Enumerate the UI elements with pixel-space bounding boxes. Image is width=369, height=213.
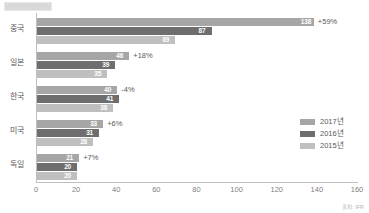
- bar-value-label: 20: [64, 162, 71, 171]
- bar[interactable]: [37, 27, 212, 35]
- bar-value-label: 138: [301, 17, 311, 26]
- bar-value-label: 35: [94, 69, 101, 78]
- bar-row[interactable]: 69: [37, 36, 358, 44]
- bar-row[interactable]: 87: [37, 27, 358, 35]
- bar-row[interactable]: 38: [37, 104, 358, 112]
- bar-group: 463935+18%: [37, 52, 358, 79]
- bar-group: 404138-4%: [37, 86, 358, 113]
- bar[interactable]: [37, 163, 77, 171]
- bar-value-label: 40: [104, 85, 111, 94]
- bar-value-label: 39: [102, 60, 109, 69]
- x-axis-tick-label: 0: [34, 184, 38, 196]
- growth-annotation: -4%: [121, 85, 134, 95]
- bar[interactable]: [37, 36, 175, 44]
- bar-value-label: 28: [80, 137, 87, 146]
- legend-item[interactable]: 2015년: [300, 140, 360, 151]
- bar-value-label: 33: [90, 119, 97, 128]
- bar-row[interactable]: 39: [37, 61, 358, 69]
- x-axis-ticks: 020406080100120140160: [36, 184, 358, 198]
- x-axis-tick-label: 160: [351, 184, 364, 196]
- bar-row[interactable]: 20: [37, 163, 358, 171]
- bar-value-label: 20: [64, 171, 71, 180]
- legend-item[interactable]: 2017년: [300, 116, 360, 127]
- legend-swatch: [300, 119, 315, 125]
- bar-chart: 1388769+59%463935+18%404138-4%333128+6%2…: [0, 0, 369, 213]
- category-label: 중국: [0, 24, 34, 34]
- category-label: 한국: [0, 92, 34, 102]
- bar-row[interactable]: 35: [37, 70, 358, 78]
- bar-group: 212020+7%: [37, 154, 358, 181]
- x-axis-tick-label: 20: [72, 184, 80, 196]
- plot-area: 1388769+59%463935+18%404138-4%333128+6%2…: [36, 13, 358, 183]
- chart-legend: 2017년2016년2015년: [297, 114, 363, 154]
- bar-row[interactable]: 138: [37, 18, 358, 26]
- x-axis-tick-label: 100: [230, 184, 243, 196]
- bar-row[interactable]: 41: [37, 95, 358, 103]
- bar[interactable]: [37, 18, 314, 26]
- legend-swatch: [300, 143, 315, 149]
- bar-value-label: 87: [199, 26, 206, 35]
- legend-label: 2017년: [320, 117, 344, 127]
- top-marker-decoration: [4, 2, 52, 11]
- growth-annotation: +6%: [107, 119, 122, 129]
- growth-annotation: +7%: [83, 153, 98, 163]
- x-axis-tick-label: 60: [152, 184, 160, 196]
- x-axis-line: [36, 182, 358, 183]
- category-label: 독일: [0, 160, 34, 170]
- bar[interactable]: [37, 172, 77, 180]
- growth-annotation: +18%: [133, 51, 152, 61]
- source-note: 출처: IFR: [342, 203, 364, 211]
- growth-annotation: +59%: [318, 17, 337, 27]
- x-axis-tick-label: 40: [112, 184, 120, 196]
- bar-value-label: 38: [100, 103, 107, 112]
- legend-label: 2016년: [320, 129, 344, 139]
- bar-row[interactable]: 20: [37, 172, 358, 180]
- legend-swatch: [300, 131, 315, 137]
- legend-item[interactable]: 2016년: [300, 128, 360, 139]
- bar-group: 1388769+59%: [37, 18, 358, 45]
- x-axis-tick-label: 140: [311, 184, 324, 196]
- x-axis-tick-label: 80: [192, 184, 200, 196]
- bar-value-label: 21: [66, 153, 73, 162]
- bar-row[interactable]: 46: [37, 52, 358, 60]
- category-label: 일본: [0, 58, 34, 68]
- bar-value-label: 69: [162, 35, 169, 44]
- x-axis-tick-label: 120: [270, 184, 283, 196]
- bar-value-label: 31: [86, 128, 93, 137]
- bar-row[interactable]: 40: [37, 86, 358, 94]
- bar-value-label: 41: [106, 94, 113, 103]
- category-label: 미국: [0, 126, 34, 136]
- legend-label: 2015년: [320, 141, 344, 151]
- bar-value-label: 46: [116, 51, 123, 60]
